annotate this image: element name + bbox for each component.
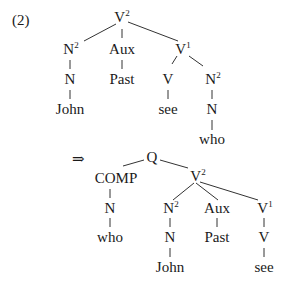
- node-n-object: N: [207, 102, 218, 117]
- node-n: N: [65, 72, 76, 87]
- node-see: see: [158, 102, 177, 117]
- node-n2-subject: N2: [163, 201, 178, 216]
- node-v2-root: V2: [114, 10, 129, 25]
- node-see-2: see: [254, 260, 273, 275]
- derivation-arrow: ⇒: [72, 150, 85, 168]
- node-n2: N2: [63, 42, 78, 57]
- tree-branches: [0, 0, 285, 284]
- node-who-comp: who: [97, 230, 123, 245]
- node-comp: COMP: [95, 171, 138, 186]
- node-aux: Aux: [109, 42, 135, 57]
- node-n-comp: N: [105, 201, 116, 216]
- node-q-root: Q: [147, 150, 158, 165]
- node-n-subject: N: [165, 230, 176, 245]
- node-v1-2: V1: [257, 201, 272, 216]
- node-john: John: [56, 102, 84, 117]
- node-v: V: [163, 72, 174, 87]
- node-past-2: Past: [204, 230, 229, 245]
- node-john-2: John: [156, 260, 184, 275]
- node-v2: V2: [190, 169, 205, 184]
- example-number: (2): [12, 12, 30, 29]
- node-who: who: [199, 132, 225, 147]
- node-aux-2: Aux: [204, 201, 230, 216]
- node-v1: V1: [175, 42, 190, 57]
- node-v-2: V: [259, 230, 270, 245]
- node-past: Past: [109, 72, 134, 87]
- node-n2-object: N2: [205, 72, 220, 87]
